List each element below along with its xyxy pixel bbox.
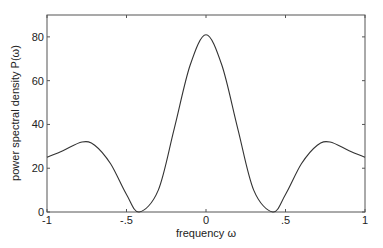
y-tick-label: 60 [32,75,44,87]
y-tick-label: 80 [32,31,44,43]
y-tick-label: 40 [32,118,44,130]
x-tick-label: 0 [203,214,209,226]
psd-chart: -1-.50.51 020406080 frequency ω power sp… [0,0,383,248]
x-tick-label: .5 [281,214,290,226]
x-axis-label: frequency ω [176,227,236,239]
plot-frame [47,15,365,212]
y-tick-labels: 020406080 [32,31,44,218]
x-tick-labels: -1-.50.51 [42,214,368,226]
y-tick-label: 0 [38,206,44,218]
x-tick-label: 1 [362,214,368,226]
y-tick-label: 20 [32,162,44,174]
y-axis-label: power spectral density P(ω) [9,45,21,181]
x-tick-label: -.5 [120,214,133,226]
